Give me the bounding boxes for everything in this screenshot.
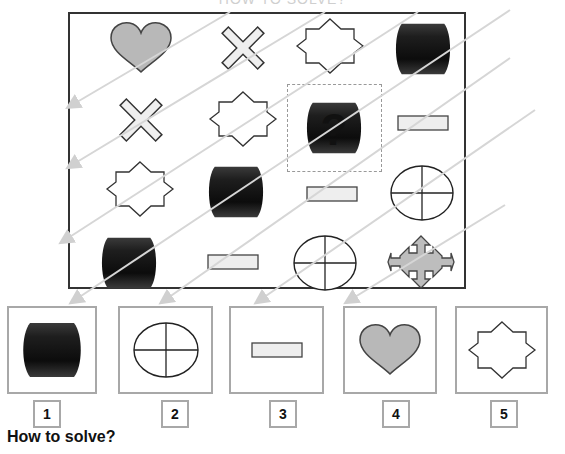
eight-point-star-icon: [467, 319, 537, 381]
answer-number-2[interactable]: 2: [161, 400, 189, 428]
quartered-circle-icon: [131, 320, 201, 380]
rectangle-shape-icon: [249, 340, 305, 360]
answer-option-5[interactable]: [455, 306, 548, 394]
answer-option-4[interactable]: [343, 306, 437, 394]
answer-option-1[interactable]: [7, 306, 97, 394]
answer-option-3[interactable]: [229, 306, 324, 394]
heart-shape-icon: [357, 322, 423, 378]
answer-option-2[interactable]: [118, 306, 213, 394]
puzzle-title: HOW TO SOLVE?: [0, 0, 565, 7]
answer-number-1[interactable]: 1: [33, 400, 61, 428]
how-to-solve-heading: How to solve?: [7, 428, 115, 446]
answer-number-5[interactable]: 5: [490, 400, 518, 428]
puzzle-frame: [68, 12, 466, 289]
answer-number-4[interactable]: 4: [382, 400, 410, 428]
barrel-shape-icon: [22, 319, 82, 381]
answer-number-3[interactable]: 3: [269, 400, 297, 428]
missing-cell-box: [287, 84, 382, 172]
